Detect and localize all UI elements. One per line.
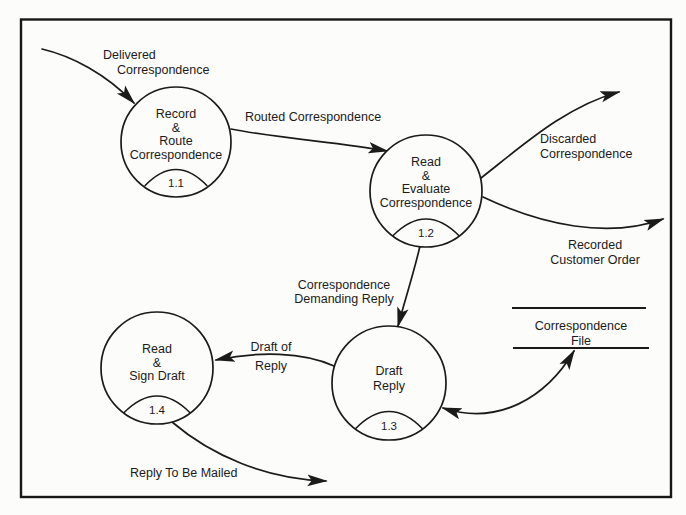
flow-label-discarded-correspondence: Discarded Correspondence [540, 132, 632, 161]
flow-label-delivered-correspondence: Delivered Correspondence [103, 48, 209, 77]
process-label-line: Read [411, 155, 441, 169]
flow-label-reply-to-be-mailed: Reply To Be Mailed [130, 466, 238, 480]
flow-label-line: Recorded [568, 238, 622, 252]
flow-label-line: Customer Order [550, 253, 640, 267]
flow-label-line: Reply [255, 359, 288, 373]
process-label-line: Evaluate [402, 182, 451, 196]
process-draft-reply: Draft Reply 1.3 [332, 326, 446, 440]
flow-label-line: Correspondence [298, 278, 390, 292]
flow-arrow-correspondence-file-access [443, 351, 574, 414]
flow-label-line: Correspondence [117, 63, 209, 77]
process-label-line: & [153, 356, 162, 370]
dfd-canvas: Record & Route Correspondence 1.1 Read &… [0, 0, 686, 515]
process-label-line: & [422, 169, 431, 183]
data-store-correspondence-file: Correspondence File [512, 308, 649, 348]
flow-label-line: Discarded [540, 132, 596, 146]
flow-label-line: Delivered [103, 48, 156, 62]
data-store-label-line: Correspondence [535, 319, 627, 333]
flow-label-draft-of-reply: Draft of Reply [251, 340, 293, 373]
process-label-line: Draft [375, 364, 403, 378]
process-read-evaluate-correspondence: Read & Evaluate Correspondence 1.2 [370, 135, 482, 247]
process-label-line: Correspondence [380, 196, 472, 210]
process-label-line: Read [142, 342, 172, 356]
process-label-line: Sign Draft [129, 369, 185, 383]
dfd-figure: Record & Route Correspondence 1.1 Read &… [0, 0, 686, 515]
flow-label-recorded-customer-order: Recorded Customer Order [550, 238, 640, 267]
process-label-line: & [172, 121, 181, 135]
process-number: 1.2 [418, 227, 434, 239]
process-read-sign-draft: Read & Sign Draft 1.4 [101, 312, 213, 424]
flow-arrow-recorded-customer-order [483, 197, 663, 228]
process-label-line: Reply [373, 379, 406, 393]
flow-label-line: Reply To Be Mailed [130, 466, 238, 480]
process-record-route-correspondence: Record & Route Correspondence 1.1 [121, 87, 231, 197]
process-label-line: Route [159, 134, 192, 148]
flow-label-line: Demanding Reply [294, 292, 394, 306]
data-store-label-line: File [571, 334, 591, 348]
flow-label-line: Routed Correspondence [245, 110, 381, 124]
flow-label-correspondence-demanding-reply: Correspondence Demanding Reply [294, 278, 394, 307]
flow-label-routed-correspondence: Routed Correspondence [245, 110, 381, 124]
flow-label-line: Draft of [251, 340, 293, 354]
process-label-line: Correspondence [130, 148, 222, 162]
flow-arrow-correspondence-demanding-reply [398, 246, 420, 326]
flow-arrow-routed-correspondence [231, 129, 387, 151]
process-label-line: Record [156, 107, 196, 121]
process-number: 1.3 [381, 420, 397, 432]
process-number: 1.4 [149, 404, 166, 416]
flow-label-line: Correspondence [540, 147, 632, 161]
process-number: 1.1 [168, 177, 184, 189]
